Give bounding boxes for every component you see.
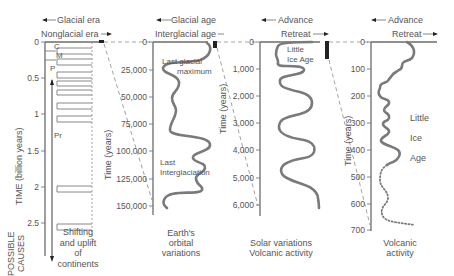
tick-50000: 50,000 [121, 92, 147, 102]
header-retreat: Retreat [281, 29, 311, 39]
annotation-last: Last [160, 158, 176, 167]
arrowhead-right-icon [107, 32, 112, 36]
header-advance: Advance [388, 15, 423, 25]
tick-100000: 100,000 [116, 146, 147, 156]
tick-0: 0 [249, 37, 254, 47]
cause-text-line-1: Solar variations [250, 238, 313, 248]
arrowhead-down-icon [50, 256, 54, 262]
tick-2-5: 2.5 [27, 218, 39, 228]
holocene-curve [276, 42, 319, 208]
arrowhead-right-icon [324, 32, 329, 36]
cause-text-line-3: variations [162, 248, 201, 258]
zoom-marker [213, 41, 217, 48]
axis-label-years: Time (years) [218, 84, 228, 134]
tick-700: 700 [351, 225, 365, 235]
tick-3000: 3,000 [233, 118, 255, 128]
period-p: P [50, 64, 55, 73]
tick-1: 1 [34, 109, 39, 119]
annotation-little: Little [410, 113, 429, 123]
tick-0: 0 [142, 37, 147, 47]
tick-2: 2 [34, 182, 39, 192]
tick-600: 600 [351, 199, 365, 209]
arrowhead-left-icon [371, 18, 376, 22]
tick-6000: 6,000 [233, 200, 255, 210]
header-retreat: Retreat [392, 29, 422, 39]
annotation-ice: Ice [410, 133, 422, 143]
cause-text-line-2: and uplift [60, 238, 97, 248]
tick-500: 500 [351, 172, 365, 182]
tick-5000: 5,000 [233, 173, 255, 183]
header-nonglacial-era: Nonglacial era [41, 29, 99, 39]
period-pr: Pr [54, 131, 62, 140]
annotation-maximum: maximum [177, 67, 212, 76]
arrowhead-right-icon [433, 32, 438, 36]
header-advance: Advance [278, 15, 313, 25]
cause-text-line-1: Earth's [167, 228, 195, 238]
tick-0-5: 0.5 [27, 73, 39, 83]
annotation-ice-age: Ice Age [287, 55, 314, 64]
header-interglacial-age: Interglacial age [155, 29, 216, 39]
tick-75000: 75,000 [121, 119, 147, 129]
recent-curve-dotted [380, 165, 415, 225]
annotation-last-glacial: Last glacial [162, 57, 202, 66]
recent-curve [379, 42, 415, 165]
panel-recent: Advance Retreat 0 100 200 300 400 500 60… [343, 15, 438, 258]
cause-text-line-4: continents [57, 259, 99, 269]
panel-glacial-era: Glacial era Nonglacial era 0 0.5 1 1.5 2… [6, 15, 112, 276]
possible-causes-label: POSSIBLE [6, 231, 16, 276]
panel-holocene: Advance Retreat 0 1,000 2,000 3,000 4,00… [218, 15, 329, 258]
glacial-timescale-diagram: Glacial era Nonglacial era 0 0.5 1 1.5 2… [0, 0, 454, 276]
arrowhead-left-icon [261, 18, 266, 22]
tick-0: 0 [360, 37, 365, 47]
tick-0: 0 [34, 37, 39, 47]
arrowhead-left-icon [156, 18, 161, 22]
possible-causes-label-2: CAUSES [16, 235, 26, 272]
axis-label-years: Time (years) [103, 130, 113, 180]
tick-4000: 4,000 [233, 145, 255, 155]
tick-1000: 1,000 [233, 64, 255, 74]
zoom-marker [325, 41, 329, 59]
axis-label-years: Time (years) [343, 116, 353, 166]
annotation-age: Age [410, 153, 426, 163]
tick-200: 200 [351, 91, 365, 101]
tick-125000: 125,000 [116, 174, 147, 184]
arrowhead-left-icon [42, 18, 47, 22]
tick-1-5: 1.5 [27, 146, 39, 156]
cause-text-line-1: Shifting [63, 227, 93, 237]
cause-text-line-3: of [74, 248, 82, 258]
header-glacial-era: Glacial era [57, 15, 100, 25]
tick-100: 100 [351, 64, 365, 74]
axis-label-billion-years: TIME (billion years) [14, 127, 24, 205]
panel-glacial-age: Glacial age Interglacial age 0 25,000 50… [103, 15, 224, 258]
arrowhead-up-icon [50, 79, 54, 85]
annotation-interglaciation: Interglaciation [160, 168, 210, 177]
cause-text-line-1: Volcanic [383, 238, 417, 248]
cause-text-line-2: orbital [169, 238, 194, 248]
annotation-little: Little [287, 45, 304, 54]
tick-150000: 150,000 [116, 201, 147, 211]
cause-text-line-2: activity [386, 248, 414, 258]
tick-2000: 2,000 [233, 91, 255, 101]
tick-25000: 25,000 [121, 65, 147, 75]
cause-text-line-2: Volcanic activity [249, 248, 313, 258]
zoom-marker [99, 40, 104, 43]
header-glacial-age: Glacial age [171, 15, 216, 25]
